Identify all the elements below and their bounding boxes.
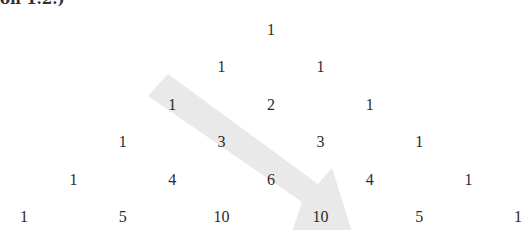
triangle-entry: 1	[366, 97, 374, 113]
triangle-entry: 1	[20, 209, 28, 225]
triangle-entry: 3	[218, 134, 226, 150]
triangle-entry: 10	[214, 209, 230, 225]
triangle-entry: 1	[415, 134, 423, 150]
triangle-entry: 1	[514, 209, 522, 225]
triangle-entry: 1	[168, 97, 176, 113]
triangle-entry: 1	[267, 22, 275, 38]
triangle-entry: 6	[267, 172, 275, 188]
triangle-entry: 1	[218, 59, 226, 75]
triangle-entry: 10	[312, 209, 328, 225]
triangle-entry: 2	[267, 97, 275, 113]
triangle-entry: 5	[415, 209, 423, 225]
triangle-entry: 4	[366, 172, 374, 188]
triangle-entry: 3	[316, 134, 324, 150]
triangle-entry: 1	[69, 172, 77, 188]
triangle-entry: 5	[119, 209, 127, 225]
triangle-entry: 1	[119, 134, 127, 150]
triangle-entry: 1	[316, 59, 324, 75]
triangle-entry: 4	[168, 172, 176, 188]
diagonal-arrow	[0, 0, 532, 230]
triangle-entry: 1	[465, 172, 473, 188]
